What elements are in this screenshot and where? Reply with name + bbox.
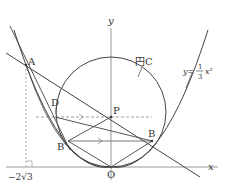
label-curve-den: 3 [198,73,202,81]
point-P [110,116,112,118]
label-P: P [113,105,120,116]
line-AB [6,53,200,177]
label-O: O [107,169,115,180]
label-D: D [51,97,59,108]
label-x-tick: −2√3 [8,172,33,182]
label-curve-suffix: x² [205,67,213,76]
point-A [25,64,27,66]
label-y-axis: y [107,15,114,26]
label-B: B [148,128,155,139]
point-B [151,140,153,142]
label-curve-num: 1 [198,63,202,71]
math-diagram: A D P B B′ O x y 円C y= 1 3 x² −2√3 [0,0,225,195]
label-A: A [27,56,36,67]
label-Bprime: B′ [57,141,67,152]
segment-D-B [55,117,152,141]
label-circle-C: 円C [135,56,153,67]
label-x-axis: x [208,161,214,172]
label-pointer-circle [138,67,142,77]
label-curve-prefix: y= [182,67,194,76]
parabola-inner [26,65,111,167]
right-angle-mark [26,161,32,167]
